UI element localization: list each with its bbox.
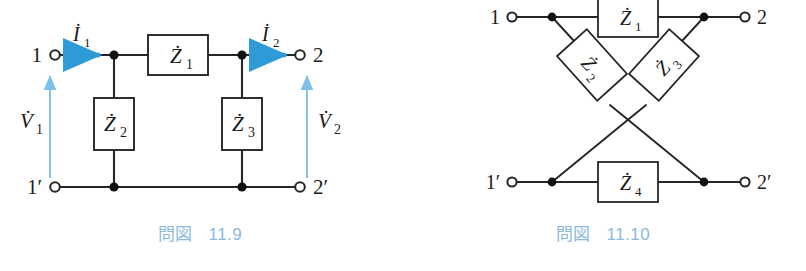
terminal-1-circle <box>507 12 516 21</box>
caption-number: 11.9 <box>208 225 242 244</box>
terminal-2p-label: 2′ <box>757 171 771 193</box>
terminal-1-circle <box>50 50 60 60</box>
junction-dot-bottom-left <box>109 182 118 191</box>
voltage-labels: V̇ 1 V̇ 2 <box>20 109 341 137</box>
terminal-2p-label: 2′ <box>313 175 328 199</box>
impedance-z1-sub: 1 <box>186 57 193 72</box>
figure-11-9-caption: 問図 11.9 <box>0 220 400 245</box>
impedance-z1-label: Ż <box>170 44 182 68</box>
wires <box>517 17 740 182</box>
voltage-v2-label: V̇ <box>318 109 333 133</box>
circuit-diagram-tee: 1 2 1′ 2′ Ż 1 Ż 2 Ż 3 İ 1 İ 2 <box>0 0 400 215</box>
voltage-arrows <box>50 76 307 178</box>
terminal-1p-circle <box>507 177 516 186</box>
current-i1-sub: 1 <box>84 35 91 50</box>
voltage-v2-sub: 2 <box>334 122 341 137</box>
terminal-2-label: 2 <box>313 43 324 67</box>
current-i1-label: İ <box>72 23 81 45</box>
voltage-v1-sub: 1 <box>36 122 43 137</box>
terminal-2p-circle <box>740 177 749 186</box>
figure-11-9: 1 2 1′ 2′ Ż 1 Ż 2 Ż 3 İ 1 İ 2 <box>0 0 400 271</box>
impedance-labels: Ż 1 Ż 2 Ż 3 <box>104 44 255 140</box>
caption-prefix: 問図 <box>158 225 193 244</box>
impedance-z2-label: Ż <box>104 112 116 136</box>
junction-dot-bottom-right <box>700 178 709 187</box>
figure-11-10-caption: 問図 11.10 <box>400 220 806 245</box>
wire-diag-b-to-z3 <box>682 17 704 41</box>
terminal-2-circle <box>295 50 305 60</box>
junction-dot-top-left <box>109 50 118 59</box>
figure-sheet: 1 2 1′ 2′ Ż 1 Ż 2 Ż 3 İ 1 İ 2 <box>0 0 806 271</box>
caption-prefix: 問図 <box>556 225 591 244</box>
junction-dot-top-right <box>237 50 246 59</box>
impedance-z3-label: Ż <box>232 112 244 136</box>
wire-diag-a-to-z2 <box>552 17 574 41</box>
terminal-circles <box>507 12 749 186</box>
terminal-1p-circle <box>50 182 60 192</box>
caption-number: 11.10 <box>606 225 650 244</box>
junction-dot-top-right <box>700 13 709 22</box>
circuit-diagram-lattice: 1 2 1′ 2′ Ż 1 Ż 2 Ż 3 Ż <box>400 0 806 215</box>
terminal-1-label: 1 <box>32 43 43 67</box>
current-i2-sub: 2 <box>273 35 280 50</box>
terminal-2-label: 2 <box>757 6 767 28</box>
terminal-2p-circle <box>295 182 305 192</box>
junction-dot-top-left <box>548 13 557 22</box>
impedance-z4-sub: 4 <box>635 184 642 199</box>
terminal-1p-label: 1′ <box>486 171 500 193</box>
impedance-z4-label: Ż <box>620 172 632 194</box>
junction-dot-bottom-left <box>548 178 557 187</box>
impedance-z2-sub: 2 <box>120 125 127 140</box>
terminal-2-circle <box>740 12 749 21</box>
figure-11-10: 1 2 1′ 2′ Ż 1 Ż 2 Ż 3 Ż <box>400 0 806 271</box>
terminal-1p-label: 1′ <box>27 175 42 199</box>
voltage-v1-label: V̇ <box>20 109 35 133</box>
impedance-z1-label: Ż <box>620 7 632 29</box>
junction-dot-bottom-right <box>237 182 246 191</box>
impedance-z3-sub: 3 <box>248 125 255 140</box>
terminal-1-label: 1 <box>490 6 500 28</box>
current-i2-label: İ <box>261 23 270 45</box>
impedance-z1-sub: 1 <box>635 19 642 34</box>
